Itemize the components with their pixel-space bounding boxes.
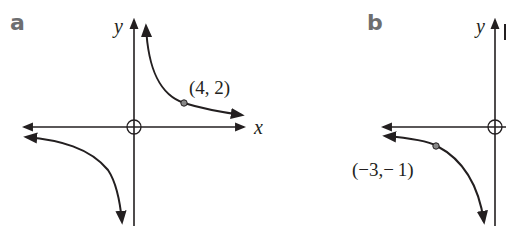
panel-b: b y (−3,− 1) (352, 10, 506, 226)
hyperbola-diagram: a y x (4, 2) b y (−3,− 1) (0, 0, 506, 226)
panel-a-point-label: (4, 2) (189, 77, 230, 99)
panel-b-point-label: (−3,− 1) (352, 159, 414, 181)
panel-b-y-label: y (474, 15, 485, 38)
panel-a-x-label: x (253, 116, 263, 138)
panel-b-label: b (367, 10, 383, 35)
panel-a-branch-lower (26, 137, 122, 222)
panel-a-branch-upper (146, 26, 242, 115)
panel-a-y-label: y (112, 15, 123, 38)
panel-a: a y x (4, 2) (10, 10, 263, 226)
panel-b-point (433, 143, 439, 149)
panel-a-label: a (10, 10, 25, 35)
panel-a-point (181, 100, 187, 106)
